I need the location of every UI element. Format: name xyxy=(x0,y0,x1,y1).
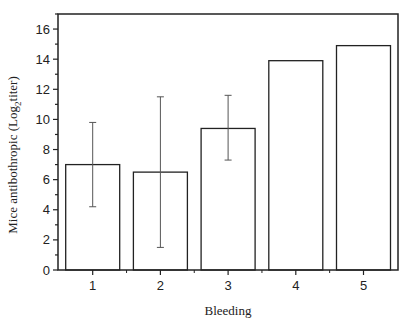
x-tick-label: 3 xyxy=(224,278,231,293)
bar-group xyxy=(269,61,323,270)
y-tick-label: 16 xyxy=(36,22,50,37)
x-tick-label: 5 xyxy=(360,278,367,293)
y-axis: 0246810121416 xyxy=(36,14,58,278)
y-tick-label: 0 xyxy=(43,263,50,278)
x-tick-label: 1 xyxy=(89,278,96,293)
bar xyxy=(337,46,391,270)
x-axis-title: Bleeding xyxy=(205,303,252,318)
bar-group xyxy=(201,95,255,270)
bar-group xyxy=(66,122,120,270)
x-tick-label: 4 xyxy=(292,278,299,293)
y-axis-title: Mice antibothropic (Log2titer) xyxy=(5,76,23,234)
y-tick-label: 14 xyxy=(36,52,50,67)
y-tick-label: 12 xyxy=(36,82,50,97)
bar-chart: 0246810121416 12345 Bleeding Mice antibo… xyxy=(0,0,408,327)
y-tick-label: 10 xyxy=(36,112,50,127)
y-tick-label: 8 xyxy=(43,142,50,157)
y-tick-label: 4 xyxy=(43,202,50,217)
bar-group xyxy=(133,97,187,270)
y-tick-label: 2 xyxy=(43,232,50,247)
bar xyxy=(269,61,323,270)
x-axis: 12345 xyxy=(89,270,367,293)
plot-area xyxy=(58,14,398,270)
bar-group xyxy=(337,46,391,270)
x-tick-label: 2 xyxy=(157,278,164,293)
y-tick-label: 6 xyxy=(43,172,50,187)
